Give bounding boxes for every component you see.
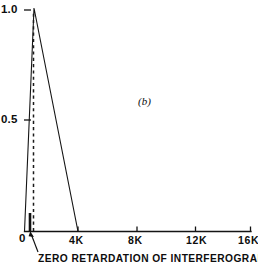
series-interferogram-envelope xyxy=(25,8,252,232)
callout-arrow-line xyxy=(32,235,39,252)
y-axis-tick-label-1p0: 1.0 xyxy=(1,3,18,15)
x-axis-tick-label-12k: 12K xyxy=(186,234,207,246)
y-axis-tick-label-0p5: 0.5 xyxy=(1,113,18,125)
x-axis-tick-label-4k: 4K xyxy=(69,234,84,246)
x-axis-tick-label-8k: 8K xyxy=(128,234,143,246)
x-axis-tick-label-16k: 16K xyxy=(238,234,258,246)
chart-canvas xyxy=(0,0,258,268)
figure-panel-b: 1.0 0.5 0 4K 8K 12K 16K (b) ZERO RETARDA… xyxy=(0,0,258,268)
x-axis-tick-label-0: 0 xyxy=(19,232,25,244)
zero-retardation-caption: ZERO RETARDATION OF INTERFEROGRAM xyxy=(38,253,258,264)
panel-label: (b) xyxy=(138,95,151,107)
